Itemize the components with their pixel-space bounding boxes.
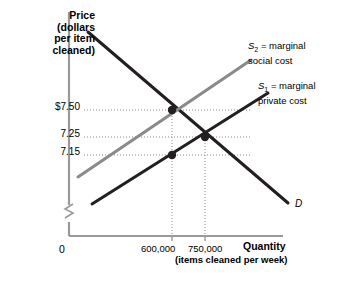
y-tick-label-715: 7.15 <box>24 146 80 157</box>
point-market-equilibrium <box>201 133 209 141</box>
y-axis-title-line-4: cleaned) <box>52 45 95 57</box>
s1-text-line1: = marginal <box>271 80 316 91</box>
y-tick-label-750: $7.50 <box>24 101 80 112</box>
social-cost-curve-label: S2 = marginal social cost <box>248 40 306 66</box>
origin-label: 0 <box>59 243 65 255</box>
x-tick-label-750000: 750,000 <box>188 243 222 254</box>
y-axis-title-line-3: per item <box>52 33 95 45</box>
x-axis-title: Quantity <box>243 241 286 253</box>
s2-text-line2: social cost <box>248 55 306 66</box>
x-axis-subtitle: (items cleaned per week) <box>175 254 287 265</box>
y-axis-title: Price (dollars per item cleaned) <box>52 10 95 56</box>
point-social-optimum <box>168 106 176 114</box>
s1-text-line2: private cost <box>258 95 316 106</box>
s1-subscript: 1 <box>264 86 268 93</box>
s2-text-line1: = marginal <box>261 40 306 51</box>
s2-subscript: 2 <box>254 46 258 53</box>
x-tick-label-600000: 600,000 <box>141 243 175 254</box>
point-private-cost-at-optimum <box>168 151 176 159</box>
private-cost-curve-label: S1 = marginal private cost <box>258 80 316 106</box>
axis-break-icon <box>65 204 73 218</box>
externality-supply-demand-chart: Price (dollars per item cleaned) $7.50 7… <box>0 0 342 285</box>
y-axis-title-line-1: Price <box>52 10 95 22</box>
demand-curve-label: D <box>295 198 302 209</box>
guide-lines <box>84 110 250 236</box>
y-tick-label-725: 7.25 <box>24 128 80 139</box>
